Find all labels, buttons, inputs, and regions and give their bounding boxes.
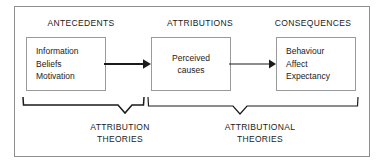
- box-antecedents-line-2: Beliefs: [36, 58, 105, 71]
- brace-down-icon-attribution-theories: [23, 97, 144, 113]
- column-heading-attributions: ATTRIBUTIONS: [148, 18, 252, 28]
- concept-box-consequences: Behaviour Affect Expectancy: [276, 37, 356, 91]
- box-attributions-line-1: Perceived: [172, 52, 210, 65]
- braces-group: [0, 92, 383, 122]
- caption-attribution-theories: ATTRIBUTION THEORIES: [60, 122, 180, 145]
- concept-box-attributions: Perceived causes: [151, 37, 231, 91]
- attribution-theory-diagram: ANTECEDENTS ATTRIBUTIONS CONSEQUENCES In…: [0, 0, 383, 164]
- caption-attributional-theories-line-1: ATTRIBUTIONAL: [190, 122, 330, 134]
- column-heading-consequences: CONSEQUENCES: [258, 18, 368, 28]
- box-consequences-line-1: Behaviour: [286, 45, 355, 58]
- caption-attribution-theories-line-2: THEORIES: [60, 134, 180, 146]
- column-heading-antecedents: ANTECEDENTS: [22, 18, 140, 28]
- caption-attributional-theories: ATTRIBUTIONAL THEORIES: [190, 122, 330, 145]
- brace-down-icon-attributional-theories: [148, 97, 358, 114]
- box-consequences-line-2: Affect: [286, 58, 355, 71]
- box-attributions-line-2: causes: [178, 64, 205, 77]
- box-antecedents-line-3: Motivation: [36, 70, 105, 83]
- arrow-right-icon-antecedents-to-attributions: [104, 54, 152, 74]
- caption-attributional-theories-line-2: THEORIES: [190, 134, 330, 146]
- arrow-right-icon-attributions-to-consequences: [229, 54, 277, 74]
- box-antecedents-line-1: Information: [36, 45, 105, 58]
- box-consequences-line-3: Expectancy: [286, 70, 355, 83]
- concept-box-antecedents: Information Beliefs Motivation: [26, 37, 106, 91]
- caption-attribution-theories-line-1: ATTRIBUTION: [60, 122, 180, 134]
